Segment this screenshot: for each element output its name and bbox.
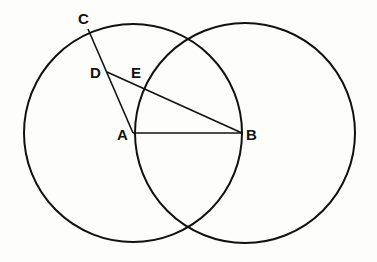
label-point-e: E [131,64,141,81]
euclid-construction-diagram: C D E A B [0,0,377,262]
label-point-a: A [117,126,128,143]
label-point-b: B [246,126,257,143]
segment-db [107,72,242,133]
label-point-d: D [90,64,101,81]
label-point-c: C [78,10,89,27]
